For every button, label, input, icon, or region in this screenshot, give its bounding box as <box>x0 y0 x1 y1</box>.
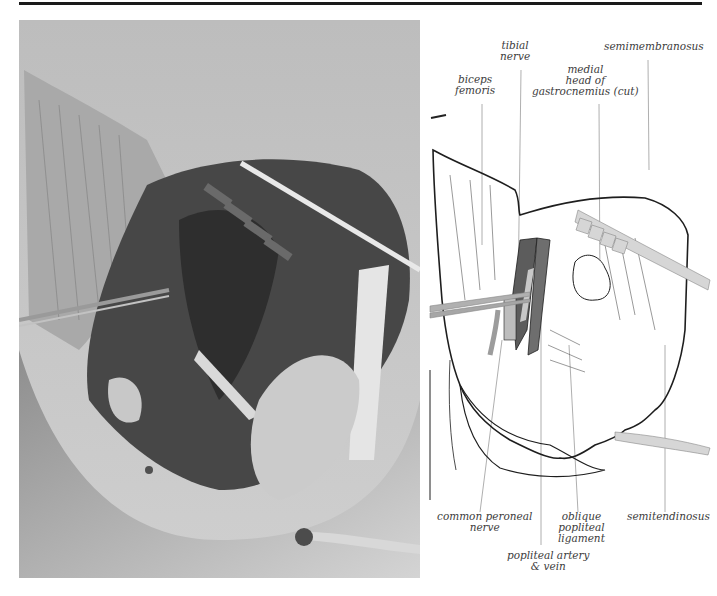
label-popliteal-artery-vein: popliteal artery & vein <box>507 550 590 572</box>
label-tibial-nerve: tibial nerve <box>500 40 530 62</box>
surgical-photograph <box>19 20 420 578</box>
label-medial-head-gastrocnemius: medial head of gastrocnemius (cut) <box>532 64 639 97</box>
label-biceps-femoris: biceps femoris <box>455 74 495 96</box>
label-common-peroneal-nerve: common peroneal nerve <box>437 511 532 533</box>
label-semimembranosus: semimembranosus <box>604 41 704 52</box>
label-semitendinosus: semitendinosus <box>627 511 710 522</box>
label-oblique-popliteal-ligament: oblique popliteal ligament <box>558 511 605 544</box>
anatomical-line-drawing: biceps femoris tibial nerve medial head … <box>420 0 717 596</box>
